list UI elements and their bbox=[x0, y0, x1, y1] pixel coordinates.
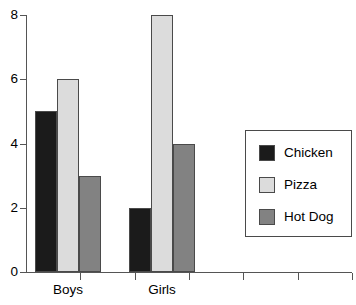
legend-label: Pizza bbox=[284, 178, 317, 192]
y-axis-tick bbox=[20, 79, 26, 80]
legend-label: Chicken bbox=[284, 146, 333, 160]
bar-boys-chicken bbox=[35, 111, 57, 272]
y-axis-tick bbox=[20, 144, 26, 145]
y-axis-tick bbox=[20, 272, 26, 273]
y-axis-tick-label: 0 bbox=[0, 265, 18, 279]
y-axis-tick-label: 8 bbox=[0, 8, 18, 22]
x-axis-tick bbox=[80, 273, 81, 280]
legend-item-chicken[interactable]: Chicken bbox=[259, 145, 333, 161]
x-axis-label-girls: Girls bbox=[148, 283, 176, 297]
x-axis-tick bbox=[243, 273, 244, 280]
chart-legend: ChickenPizzaHot Dog bbox=[245, 130, 352, 237]
legend-item-hot-dog[interactable]: Hot Dog bbox=[259, 209, 334, 225]
legend-swatch-icon bbox=[259, 209, 275, 225]
bar-chart: 02468 BoysGirls ChickenPizzaHot Dog bbox=[0, 0, 356, 305]
bar-boys-pizza bbox=[57, 79, 79, 272]
legend-swatch-icon bbox=[259, 177, 275, 193]
y-axis-line bbox=[26, 15, 27, 273]
x-axis-tick bbox=[298, 273, 299, 280]
y-axis-tick bbox=[20, 208, 26, 209]
bar-girls-chicken bbox=[129, 208, 151, 272]
y-axis-tick-label: 2 bbox=[0, 201, 18, 215]
y-axis-tick bbox=[20, 15, 26, 16]
bar-girls-hot-dog bbox=[173, 144, 195, 273]
x-axis-tick bbox=[135, 273, 136, 280]
x-axis-tick bbox=[189, 273, 190, 280]
legend-item-pizza[interactable]: Pizza bbox=[259, 177, 317, 193]
y-axis-tick-label: 6 bbox=[0, 72, 18, 86]
y-axis-tick-label: 4 bbox=[0, 137, 18, 151]
legend-label: Hot Dog bbox=[284, 210, 334, 224]
x-axis-tick bbox=[352, 273, 353, 280]
bar-girls-pizza bbox=[151, 15, 173, 272]
x-axis-label-boys: Boys bbox=[53, 283, 83, 297]
legend-swatch-icon bbox=[259, 145, 275, 161]
bar-boys-hot-dog bbox=[79, 176, 101, 272]
